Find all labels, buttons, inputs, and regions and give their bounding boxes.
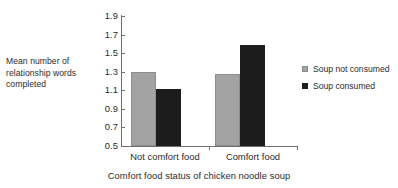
bar-comfort-food-soup-not-consumed [215, 74, 240, 146]
legend-label-soup-not-consumed: Soup not consumed [313, 64, 389, 74]
y-axis-title-line-2: relationship words [6, 68, 100, 80]
legend-swatch-icon-soup-consumed [302, 83, 308, 89]
x-axis-tick-mid [209, 146, 210, 150]
y-axis-tick-label-4: 1.1 [96, 84, 118, 95]
y-axis-tick-label-2: 1.5 [96, 47, 118, 58]
y-axis-tick-label-5: 0.9 [96, 103, 118, 114]
bar-not-comfort-food-soup-consumed [156, 89, 181, 146]
y-axis-tick-7 [121, 146, 125, 147]
y-axis-tick-label-7: 0.5 [96, 140, 118, 151]
legend-item-soup-consumed: Soup consumed [302, 79, 389, 93]
bar-not-comfort-food-soup-not-consumed [131, 72, 156, 146]
y-axis-title-line-3: completed [6, 79, 100, 91]
y-axis-title: Mean number of relationship words comple… [6, 56, 100, 91]
legend: Soup not consumed Soup consumed [302, 62, 389, 96]
x-axis-category-label-1: Comfort food [209, 151, 297, 162]
legend-item-soup-not-consumed: Soup not consumed [302, 62, 389, 76]
y-axis-tick-label-1: 1.7 [96, 29, 118, 40]
plot-area [121, 16, 297, 146]
x-axis-category-label-0: Not comfort food [121, 151, 209, 162]
bar-comfort-food-soup-consumed [240, 45, 265, 146]
legend-swatch-icon-soup-not-consumed [302, 66, 308, 72]
y-axis-title-line-1: Mean number of [6, 56, 100, 68]
legend-label-soup-consumed: Soup consumed [313, 81, 375, 91]
x-axis-tick-end [297, 146, 298, 150]
bar-chart-figure: Mean number of relationship words comple… [0, 0, 398, 188]
y-axis-tick-label-3: 1.3 [96, 66, 118, 77]
x-axis-title: Comfort food status of chicken noodle so… [0, 170, 398, 181]
y-axis-tick-label-6: 0.7 [96, 121, 118, 132]
y-axis-tick-label-0: 1.9 [96, 10, 118, 21]
